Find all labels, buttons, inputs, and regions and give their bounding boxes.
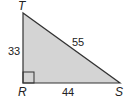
triangle-diagram: T R S 33 55 44 xyxy=(0,0,132,103)
vertex-label-s: S xyxy=(115,85,123,99)
vertex-label-r: R xyxy=(18,85,27,99)
side-label-tr: 33 xyxy=(8,45,20,57)
vertex-label-t: T xyxy=(18,0,27,13)
triangle-shape xyxy=(23,13,120,83)
side-label-rs: 44 xyxy=(62,86,74,98)
side-label-ts: 55 xyxy=(72,36,84,48)
